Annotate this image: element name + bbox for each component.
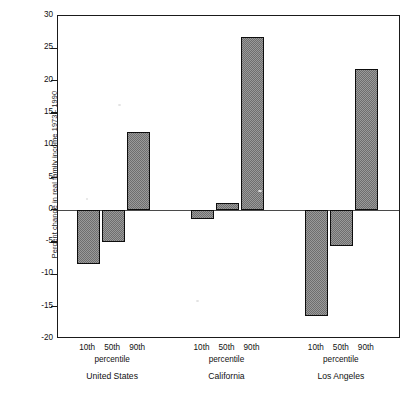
y-axis-tick-label: 15 [13, 108, 53, 116]
y-axis-tick-label: -10 [13, 269, 53, 277]
bar [241, 37, 264, 209]
bar [355, 69, 378, 210]
bar [127, 132, 150, 210]
x-axis-group-label: United States [62, 372, 162, 381]
y-axis-tick-label: 5 [13, 173, 53, 181]
x-axis-group-label: California [177, 372, 277, 381]
x-axis-group-sublabel: percentile [187, 356, 267, 364]
y-axis-tick-label: 0 [13, 205, 53, 213]
y-axis-tick-label: -20 [13, 334, 53, 342]
chart-figure: Percent change in real family income 197… [0, 0, 415, 397]
y-axis-tick-label: -15 [13, 302, 53, 310]
scan-artifact [258, 190, 262, 192]
y-axis-tick-label: 20 [13, 76, 53, 84]
bar [216, 203, 239, 209]
y-axis-tick-label: 25 [13, 43, 53, 51]
scan-artifact [118, 104, 121, 106]
bar [102, 210, 125, 242]
y-axis-tick-label: 30 [13, 11, 53, 19]
plot-inner [58, 16, 399, 337]
bar [77, 210, 100, 264]
x-axis-tick-label: 90th [232, 344, 272, 352]
x-axis-group-sublabel: percentile [301, 356, 381, 364]
y-axis-tick-label: 10 [13, 140, 53, 148]
x-axis-tick-label: 90th [346, 344, 386, 352]
y-axis-tick-label: -5 [13, 237, 53, 245]
x-axis-group-label: Los Angeles [291, 372, 391, 381]
scan-artifact [196, 300, 199, 302]
bar [191, 210, 214, 220]
x-axis-group-sublabel: percentile [72, 356, 152, 364]
scan-artifact [86, 198, 88, 200]
bar [330, 210, 353, 246]
x-axis-tick-label: 90th [117, 344, 157, 352]
plot-area [57, 15, 400, 338]
bar [305, 210, 328, 316]
